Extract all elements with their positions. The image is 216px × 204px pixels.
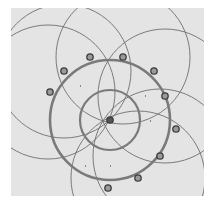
point-marker-8	[135, 175, 141, 181]
point-marker-2	[151, 68, 157, 74]
point-marker-4	[47, 89, 53, 95]
speck-2	[110, 165, 111, 167]
point-marker-1	[120, 54, 126, 60]
thin-circle-2	[98, 29, 216, 163]
thin-circles-group	[0, 0, 216, 204]
speck-0	[80, 85, 81, 87]
speck-4	[145, 95, 146, 97]
point-marker-0	[87, 54, 93, 60]
speck-3	[85, 165, 86, 167]
point-marker-6	[173, 126, 179, 132]
diagram-stage	[0, 0, 216, 204]
center-point-marker	[107, 117, 113, 123]
speck-1	[150, 120, 151, 122]
point-marker-3	[61, 68, 67, 74]
geometric-circle-diagram	[0, 0, 216, 204]
point-marker-9	[105, 185, 111, 191]
point-marker-7	[157, 153, 163, 159]
point-marker-5	[162, 93, 168, 99]
